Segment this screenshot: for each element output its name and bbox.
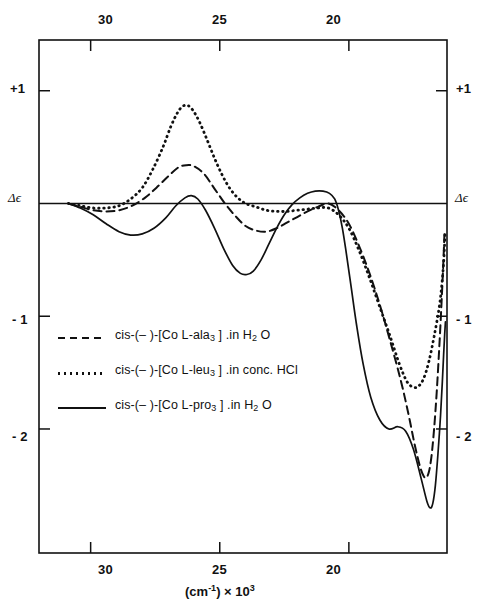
x-axis-title-sup: -1 <box>208 583 216 593</box>
x-tick-top-30: 30 <box>98 12 113 27</box>
legend-label-ala: cis-(– )-[Co L-ala3 ] .in H2 O <box>115 328 270 343</box>
x-tick-top-25: 25 <box>212 12 227 27</box>
cd-spectrum-chart <box>0 0 485 614</box>
y-tick-left-plus1: +1 <box>10 81 25 96</box>
plot-frame <box>39 40 447 553</box>
legend-pro-prefix: cis-(– )-[Co L-pro <box>115 398 211 412</box>
legend-label-pro: cis-(– )-[Co L-pro3 ] .in H2 O <box>115 398 272 413</box>
legend-swatch-dashed-icon <box>58 337 106 339</box>
y-tick-left-minus2: - 2 <box>12 429 28 444</box>
y-tick-right-minus1: - 1 <box>456 312 472 327</box>
x-tick-bottom-30: 30 <box>98 562 113 577</box>
x-tick-bottom-20: 20 <box>326 562 341 577</box>
data-curves <box>68 105 445 508</box>
legend-ala-tail: O <box>257 328 270 342</box>
legend-ala-prefix: cis-(– )-[Co L-ala <box>115 328 210 342</box>
legend-swatch-solid-icon <box>58 407 106 409</box>
x-tick-top-20: 20 <box>326 12 341 27</box>
x-axis-title: (cm-1) × 103 <box>185 583 255 599</box>
legend-item-pro: cis-(– )-[Co L-pro3 ] .in H2 O <box>39 396 419 431</box>
y-tick-left-minus1: - 1 <box>12 312 28 327</box>
legend-item-leu: cis-(– )-[Co L-leu3 ] .in conc. HCl <box>39 361 419 396</box>
legend-leu-prefix: cis-(– )-[Co L-leu <box>115 363 210 377</box>
y-tick-right-minus2: - 2 <box>456 429 472 444</box>
x-tick-bottom-25: 25 <box>212 562 227 577</box>
legend-pro-tail: O <box>258 398 271 412</box>
x-axis-title-mid: ) × 10 <box>216 584 250 599</box>
legend: cis-(– )-[Co L-ala3 ] .in H2 O cis-(– )-… <box>39 326 419 431</box>
legend-label-leu: cis-(– )-[Co L-leu3 ] .in conc. HCl <box>115 363 298 378</box>
x-axis-title-main: (cm <box>185 584 208 599</box>
legend-ala-suffix: ] .in H <box>215 328 252 342</box>
x-axis-title-exp: 3 <box>250 583 255 593</box>
legend-swatch-dotted-icon <box>58 372 106 375</box>
y-tick-right-zero: Δϵ <box>455 190 468 206</box>
legend-item-ala: cis-(– )-[Co L-ala3 ] .in H2 O <box>39 326 419 361</box>
axis-ticks <box>39 40 447 553</box>
legend-leu-suffix: ] .in conc. HCl <box>215 363 298 377</box>
legend-pro-suffix: ] .in H <box>216 398 253 412</box>
y-tick-right-plus1: +1 <box>456 81 471 96</box>
y-tick-left-zero: Δϵ <box>8 190 21 206</box>
